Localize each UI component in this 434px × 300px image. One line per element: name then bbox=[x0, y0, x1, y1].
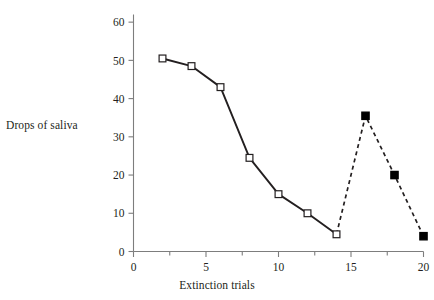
y-axis-tick-label: 30 bbox=[113, 131, 125, 143]
y-axis-tick-label: 0 bbox=[119, 246, 125, 258]
y-axis-tick-label: 50 bbox=[113, 55, 125, 67]
series-line-spontaneous-recovery bbox=[337, 116, 424, 236]
data-point-open-square bbox=[333, 231, 340, 238]
plot-area: 010203040506005101520 bbox=[0, 0, 434, 300]
data-point-open-square bbox=[246, 154, 253, 161]
x-axis-tick-label: 0 bbox=[131, 261, 137, 273]
data-point-open-square bbox=[188, 63, 195, 70]
y-axis-tick-label: 10 bbox=[113, 207, 125, 219]
x-axis-tick-label: 15 bbox=[345, 261, 357, 273]
x-axis-tick-label: 5 bbox=[203, 261, 209, 273]
x-axis-tick-label: 10 bbox=[273, 261, 285, 273]
y-axis-tick-label: 60 bbox=[113, 16, 125, 28]
data-point-filled-square bbox=[362, 112, 369, 119]
data-point-filled-square bbox=[420, 233, 427, 240]
series-line-extinction bbox=[163, 58, 337, 234]
data-point-open-square bbox=[159, 55, 166, 62]
data-point-open-square bbox=[304, 210, 311, 217]
chart-figure: Drops of saliva Extinction trials 010203… bbox=[0, 0, 434, 300]
data-point-open-square bbox=[217, 84, 224, 91]
data-point-open-square bbox=[275, 191, 282, 198]
y-axis-tick-label: 20 bbox=[113, 169, 125, 181]
x-axis-tick-label: 20 bbox=[418, 261, 430, 273]
y-axis-tick-label: 40 bbox=[113, 93, 125, 105]
data-point-filled-square bbox=[391, 171, 398, 178]
